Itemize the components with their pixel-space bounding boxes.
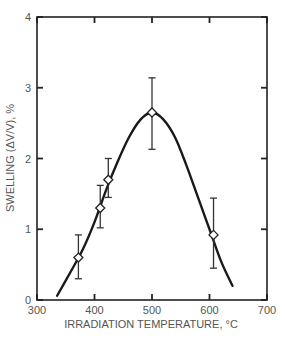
y-tick-labels: 01234 [25,11,31,306]
plot-frame [37,17,267,300]
swelling-chart: 300400500600700 01234 IRRADIATION TEMPER… [0,0,285,341]
y-tick-label: 0 [25,294,31,306]
data-point-diamond [148,108,157,117]
error-bars [75,78,217,279]
x-axis-label: IRRADIATION TEMPERATURE, °C [64,318,238,330]
y-tick-label: 2 [25,153,31,165]
data-point-diamond [96,204,105,213]
x-tick-label: 600 [200,304,218,316]
axis-ticks [37,17,267,300]
data-markers [74,108,218,262]
y-axis-label: SWELLING (ΔV/V), % [4,104,16,212]
fitted-curve [57,113,232,296]
y-tick-label: 4 [25,11,31,23]
x-tick-label: 500 [143,304,161,316]
x-tick-labels: 300400500600700 [28,304,276,316]
y-tick-label: 1 [25,223,31,235]
plot-border [37,17,267,300]
y-tick-label: 3 [25,82,31,94]
x-tick-label: 400 [85,304,103,316]
x-tick-label: 700 [258,304,276,316]
